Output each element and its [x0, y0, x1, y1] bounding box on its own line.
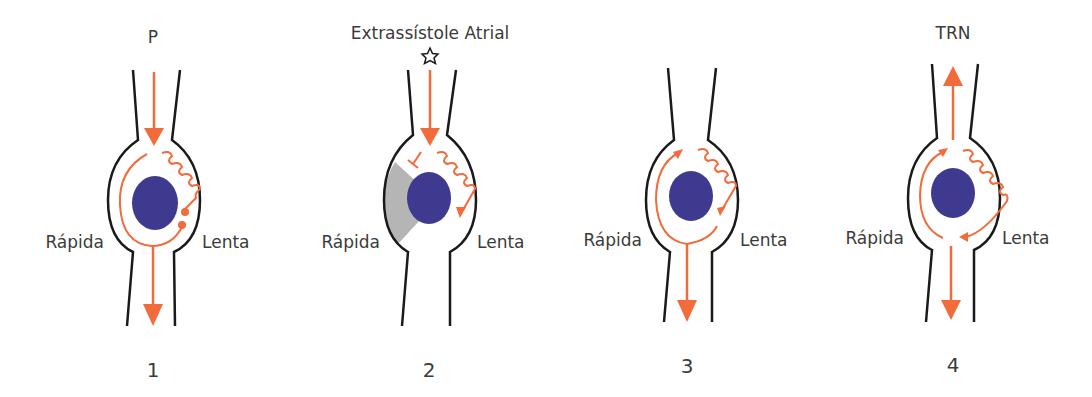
arrow-up-icon: [938, 148, 948, 157]
node-circle: [407, 172, 451, 224]
arrow-down-icon: [677, 300, 697, 322]
arrow-up-icon: [943, 66, 963, 86]
slow-block-dot: [181, 208, 189, 216]
slow-pathway-label: Lenta: [740, 232, 788, 249]
node-circle: [132, 176, 178, 230]
av-node-diagram: [0, 0, 280, 397]
av-node-diagram: [560, 0, 820, 397]
slow-pathway-label: Lenta: [1002, 230, 1050, 247]
panel-2: Extrassístole Atrial Rápida Lenta 2: [280, 0, 560, 397]
arrow-down-icon: [456, 207, 466, 218]
panel-3: Rápida Lenta 3: [560, 0, 820, 397]
fast-pathway-label: Rápida: [583, 232, 642, 249]
arrow-down-icon: [420, 128, 440, 146]
panel-1: P Rápida Lenta 1: [0, 0, 280, 397]
fast-block-dot: [178, 221, 186, 229]
blocked-fast-pathway: [408, 152, 421, 168]
slow-pathway-label: Lenta: [477, 234, 525, 251]
fast-pathway-label: Rápida: [845, 230, 904, 247]
panel-number: 2: [423, 360, 436, 380]
fast-pathway-label: Rápida: [45, 234, 104, 251]
arrow-down-icon: [717, 206, 726, 216]
arrow-down-icon: [143, 304, 163, 326]
arrow-down-icon: [144, 128, 164, 146]
panel-number: 1: [147, 360, 160, 380]
slow-pathway-label: Lenta: [202, 234, 250, 251]
outline-right: [447, 70, 476, 326]
panel-4: TRN Rápida Lenta 4: [820, 0, 1092, 397]
node-circle: [669, 171, 713, 221]
arrow-left-icon: [959, 232, 968, 242]
av-node-diagram: [820, 0, 1092, 397]
fast-pathway-label: Rápida: [321, 234, 380, 251]
av-node-diagram: [280, 0, 560, 397]
star-icon: [422, 48, 438, 64]
panel-number: 4: [947, 355, 960, 375]
node-circle: [931, 168, 975, 218]
arrow-down-icon: [941, 300, 961, 320]
fast-pathway-lower: [687, 226, 717, 244]
arrow-up-icon: [673, 149, 683, 159]
panel-number: 3: [681, 356, 694, 376]
